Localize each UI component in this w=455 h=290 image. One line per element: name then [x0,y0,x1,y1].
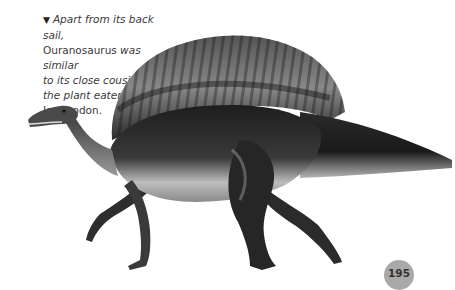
page-number-badge: 195 [384,260,414,290]
neck-and-head [28,106,118,176]
page-number: 195 [388,267,410,279]
far-hind-leg [262,190,342,264]
tail [300,112,452,178]
